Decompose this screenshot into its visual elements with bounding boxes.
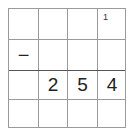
grid-line <box>9 99 125 100</box>
grid-line <box>97 9 98 127</box>
minus-sign: − <box>9 40 38 70</box>
digit-cell: 2 <box>39 71 67 99</box>
digit-cell: 4 <box>98 71 126 99</box>
grid-line <box>38 9 39 127</box>
carry-digit: 1 <box>103 12 108 22</box>
arithmetic-grid: 1 − 2 5 4 <box>8 8 126 128</box>
grid-line <box>67 9 68 127</box>
digit-cell: 5 <box>68 71 97 99</box>
